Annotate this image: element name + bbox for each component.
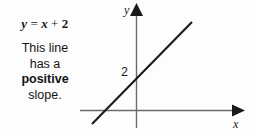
equation-equals-sign: = <box>30 16 38 31</box>
equation-text: y=x+2 <box>0 16 90 32</box>
caption-line-3-positive: positive <box>0 72 90 88</box>
x-axis-arrowhead <box>232 105 245 117</box>
equation-lhs: y <box>21 16 27 31</box>
equation-plus-sign: + <box>51 16 59 31</box>
x-axis-label: x <box>232 117 239 131</box>
y-axis-label: y <box>123 3 130 17</box>
plotted-line <box>92 22 192 124</box>
equation-constant: 2 <box>62 16 69 31</box>
caption-line-1: This line <box>0 41 90 57</box>
y-axis-arrowhead <box>130 3 143 16</box>
y-intercept-tick-label: 2 <box>121 65 128 79</box>
caption-line-2: has a <box>0 57 90 73</box>
caption-line-4: slope. <box>0 88 90 104</box>
caption-block: y=x+2 This line has a positive slope. <box>0 16 90 103</box>
equation-rhs-variable: x <box>41 16 48 31</box>
figure-container: y x 2 y=x+2 This line has a positive slo… <box>0 0 254 135</box>
